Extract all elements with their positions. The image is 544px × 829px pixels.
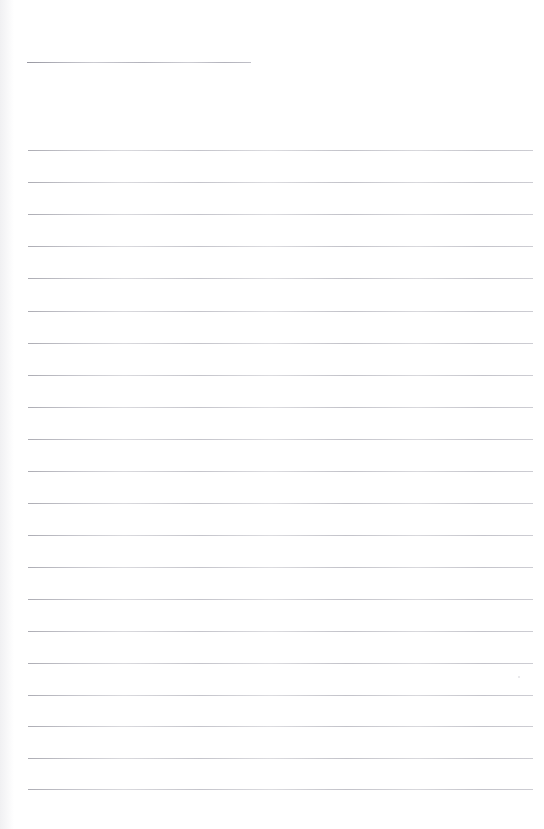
ruled-line [28, 407, 533, 408]
ruled-line [28, 214, 533, 215]
ruled-line [28, 663, 533, 664]
ruled-line [28, 567, 533, 568]
ruled-line [28, 182, 533, 183]
scan-speck [518, 676, 520, 678]
ruled-line [28, 599, 533, 600]
scanned-page [0, 0, 544, 829]
ruled-line [28, 343, 533, 344]
ruled-line [28, 726, 533, 727]
ruled-line [28, 535, 533, 536]
ruled-line [28, 375, 533, 376]
ruled-line [28, 278, 533, 279]
ruled-line [28, 503, 533, 504]
ruled-line [28, 439, 533, 440]
ruled-line [28, 246, 533, 247]
ruled-line [28, 471, 533, 472]
ruled-line [28, 695, 533, 696]
ruled-line [28, 150, 533, 151]
paper-surface [0, 0, 544, 829]
ruled-line [28, 758, 533, 759]
ruled-line [28, 631, 533, 632]
ruled-line [28, 789, 533, 790]
ruled-line [28, 311, 533, 312]
title-rule [27, 62, 251, 63]
scan-edge-shadow [0, 0, 14, 829]
